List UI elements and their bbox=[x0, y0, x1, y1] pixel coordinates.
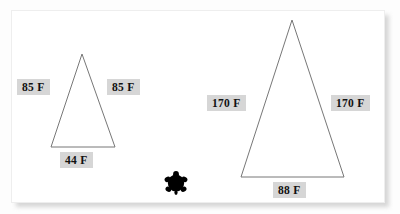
turtle-icon bbox=[163, 170, 189, 196]
large-triangle-shape bbox=[241, 20, 344, 177]
label-large-left-side: 170 F bbox=[207, 95, 246, 111]
figure-scene: 85 F 85 F 44 F 170 F 170 F 88 F bbox=[0, 0, 400, 214]
label-small-base: 44 F bbox=[60, 152, 93, 168]
small-triangle-shape bbox=[51, 54, 115, 147]
label-large-base: 88 F bbox=[273, 182, 306, 198]
label-large-right-side: 170 F bbox=[331, 95, 370, 111]
label-small-left-side: 85 F bbox=[17, 79, 50, 95]
label-small-right-side: 85 F bbox=[107, 79, 140, 95]
